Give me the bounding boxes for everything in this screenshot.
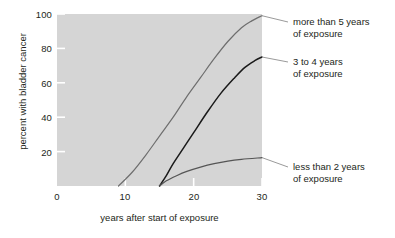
annotation-line-1: less than 2 years [293,161,365,173]
annotation-less-than-2-years: less than 2 years of exposure [293,161,365,184]
annotation-leader-lines [262,16,288,167]
annotation-line-2: of exposure [293,28,370,40]
y-axis-title: percent with bladder cancer [17,22,28,162]
y-tick-label-100: 100 [26,9,52,20]
chart-figure: 100 80 60 40 20 0 10 20 30 percent with … [0,0,395,238]
y-axis-tick-marks [57,14,65,152]
y-tick-label-60: 60 [26,78,52,89]
x-tick-label-20: 20 [182,191,206,202]
annotation-line-2: of exposure [293,68,343,80]
x-axis-tick-marks [125,178,262,186]
x-axis-title: years after start of exposure [57,212,262,223]
annotation-line-2: of exposure [293,173,365,185]
y-tick-label-40: 40 [26,112,52,123]
x-tick-label-0: 0 [45,191,69,202]
data-series-group [119,16,263,186]
y-tick-label-80: 80 [26,43,52,54]
annotation-3-to-4-years: 3 to 4 years of exposure [293,56,343,79]
y-tick-label-20: 20 [26,147,52,158]
x-tick-label-30: 30 [250,191,274,202]
series-curve [160,57,263,186]
series-curve [119,16,263,186]
annotation-line-1: 3 to 4 years [293,56,343,68]
annotation-more-than-5-years: more than 5 years of exposure [293,16,370,39]
x-tick-label-10: 10 [113,191,137,202]
annotation-line-1: more than 5 years [293,16,370,28]
